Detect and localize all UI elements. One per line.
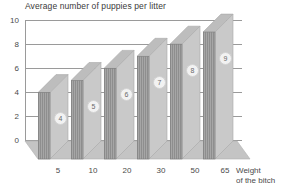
x-tick-10: 10 <box>89 166 98 175</box>
bar-value-3: 6 <box>120 88 133 101</box>
bar-value-1: 4 <box>54 112 67 125</box>
bar-value-2: 5 <box>87 100 100 113</box>
chart-container: Average number of puppies per litter 10 … <box>0 0 282 194</box>
x-tick-50: 50 <box>191 166 200 175</box>
bar-value-5: 8 <box>186 64 199 77</box>
bar-value-6: 9 <box>219 52 232 65</box>
x-tick-30: 30 <box>157 166 166 175</box>
x-tick-20: 20 <box>123 166 132 175</box>
x-axis-title-line2: of the bitch <box>236 176 275 186</box>
x-axis-title-line1: Weight <box>236 166 261 176</box>
x-tick-5: 5 <box>56 166 60 175</box>
bar-6 <box>203 0 243 194</box>
bar-value-4: 7 <box>153 76 166 89</box>
x-tick-65: 65 <box>221 166 230 175</box>
